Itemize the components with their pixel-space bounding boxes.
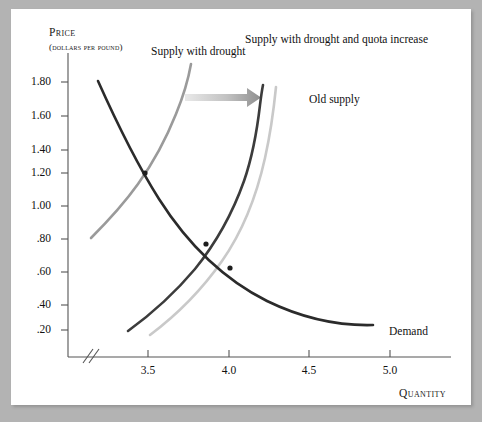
curve-label-supply-drought: Supply with drought bbox=[151, 45, 246, 59]
curve-label-demand: Demand bbox=[389, 325, 428, 339]
y-tick-label-5: 1.20 bbox=[17, 166, 51, 178]
y-tick-label-0: .20 bbox=[17, 323, 51, 335]
y-tick-label-1: .40 bbox=[17, 298, 51, 310]
y-tick-label-6: 1.40 bbox=[17, 143, 51, 155]
x-tick-label-1: 4.0 bbox=[212, 364, 246, 376]
curve-label-supply-drought-quota: Supply with drought and quota increase bbox=[245, 33, 428, 47]
supply-demand-plot bbox=[11, 9, 471, 405]
y-axis-title: Price bbox=[49, 26, 76, 38]
y-tick-label-7: 1.60 bbox=[17, 109, 51, 121]
x-axis-title: Quantity bbox=[399, 387, 446, 399]
x-axis-units: (billions of pounds of peanuts) bbox=[312, 404, 427, 405]
equilibrium-points bbox=[142, 170, 232, 270]
x-tick-label-0: 3.5 bbox=[131, 364, 165, 376]
x-tick-label-2: 4.5 bbox=[292, 364, 326, 376]
x-axis-ticks bbox=[148, 350, 390, 357]
axis-lines bbox=[68, 53, 451, 357]
y-tick-label-8: 1.80 bbox=[17, 75, 51, 87]
figure-frame: Price (dollars per pound) Quantity (bill… bbox=[0, 0, 482, 422]
y-axis-ticks bbox=[61, 82, 68, 330]
y-tick-label-2: .60 bbox=[17, 265, 51, 277]
y-axis-units: (dollars per pound) bbox=[49, 42, 123, 52]
y-tick-label-3: .80 bbox=[17, 232, 51, 244]
y-tick-label-4: 1.00 bbox=[17, 199, 51, 211]
shift-arrow-icon bbox=[185, 88, 261, 107]
figure-panel: Price (dollars per pound) Quantity (bill… bbox=[11, 9, 471, 405]
x-tick-label-3: 5.0 bbox=[373, 364, 407, 376]
x-axis-break-icon bbox=[83, 349, 99, 363]
curve-label-old-supply: Old supply bbox=[309, 93, 360, 107]
curve-supply-drought bbox=[91, 64, 191, 238]
